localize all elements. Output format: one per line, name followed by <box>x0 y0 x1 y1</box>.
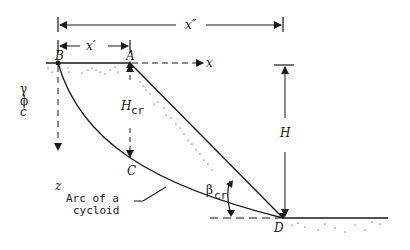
point-D-label: D <box>273 221 284 235</box>
x-double-prime-label: x″ <box>185 18 197 32</box>
x-prime-dimension: x′ <box>58 39 130 53</box>
Hcr-subscript: cr <box>131 104 145 117</box>
annotation-line2: cycloid <box>73 204 119 217</box>
slope-stability-diagram: x″ x′ x H z H cr β cr B A C D <box>0 0 410 250</box>
x-axis-label: x <box>206 56 213 70</box>
x-double-prime-dimension: x″ <box>58 17 283 32</box>
H-label: H <box>279 126 291 140</box>
beta-label: β <box>206 183 213 197</box>
H-dimension: H <box>274 65 294 216</box>
beta-arrow-bottom <box>227 210 235 217</box>
x-prime-label: x′ <box>86 39 96 53</box>
c-label: c <box>20 105 27 119</box>
annotation-leader <box>134 187 166 201</box>
z-axis-label: z <box>54 179 62 193</box>
beta-subscript: cr <box>214 189 228 202</box>
point-A-label: A <box>125 49 135 63</box>
point-B-label: B <box>54 49 64 63</box>
point-C-label: C <box>127 164 136 178</box>
